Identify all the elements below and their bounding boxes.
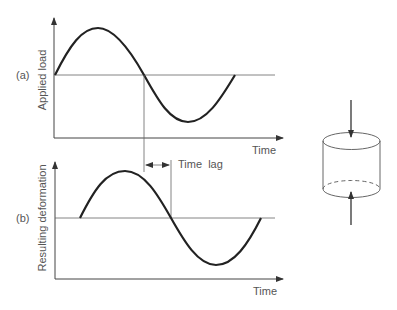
viscoelastic-diagram: (a) Applied load Time Time lag (b) Resul… <box>0 0 397 310</box>
time-lag-label: Time lag <box>178 158 223 170</box>
cylinder-bottom-back-dashed <box>323 181 380 190</box>
panel-a-x-label: Time <box>252 144 276 156</box>
panel-a-applied-load: (a) Applied load Time <box>16 18 283 156</box>
panel-b-y-label: Resulting deformation <box>36 164 48 271</box>
panel-a-label: (a) <box>16 69 29 81</box>
panel-b-resulting-deformation: (b) Resulting deformation Time <box>16 162 283 297</box>
panel-b-x-label: Time <box>253 285 277 297</box>
cylinder-specimen <box>323 100 380 225</box>
panel-b-label: (b) <box>16 212 29 224</box>
panel-a-y-label: Applied load <box>36 50 48 111</box>
